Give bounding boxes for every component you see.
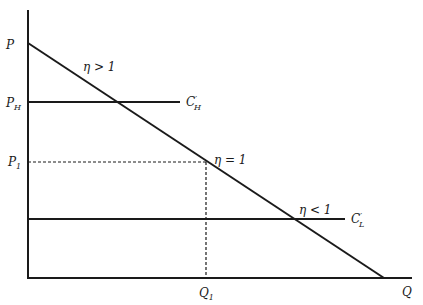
quantity-axis-label: Q: [402, 285, 412, 299]
inelastic-annotation: η < 1: [299, 203, 332, 217]
cost-high-label: C′H: [186, 94, 202, 112]
p-one-label: P1: [7, 155, 21, 171]
elastic-annotation: η > 1: [83, 60, 116, 74]
price-axis-label: P: [5, 38, 15, 52]
p-high-label: PH: [5, 96, 22, 112]
unit-elastic-annotation: η = 1: [214, 153, 247, 167]
cost-low-label: C′L: [351, 211, 364, 229]
elasticity-diagram: P PH P1 Q1 Q C′H C′L η > 1 η = 1 η < 1: [0, 0, 423, 305]
q-one-label: Q1: [199, 286, 214, 302]
